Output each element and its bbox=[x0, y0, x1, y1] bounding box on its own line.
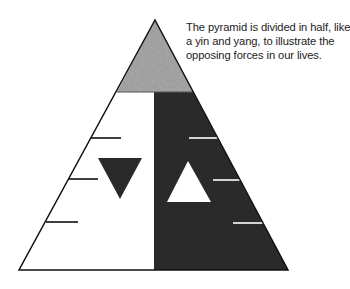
dark-half bbox=[154, 92, 288, 270]
caption-text: The pyramid is divided in half, like a y… bbox=[186, 20, 346, 62]
caption-line-2: a yin and yang, to illustrate the bbox=[186, 34, 346, 48]
light-half bbox=[19, 92, 154, 270]
caption-line-3: opposing forces in our lives. bbox=[186, 48, 346, 62]
apex-section bbox=[117, 20, 193, 92]
caption-line-1: The pyramid is divided in half, like bbox=[186, 20, 346, 34]
